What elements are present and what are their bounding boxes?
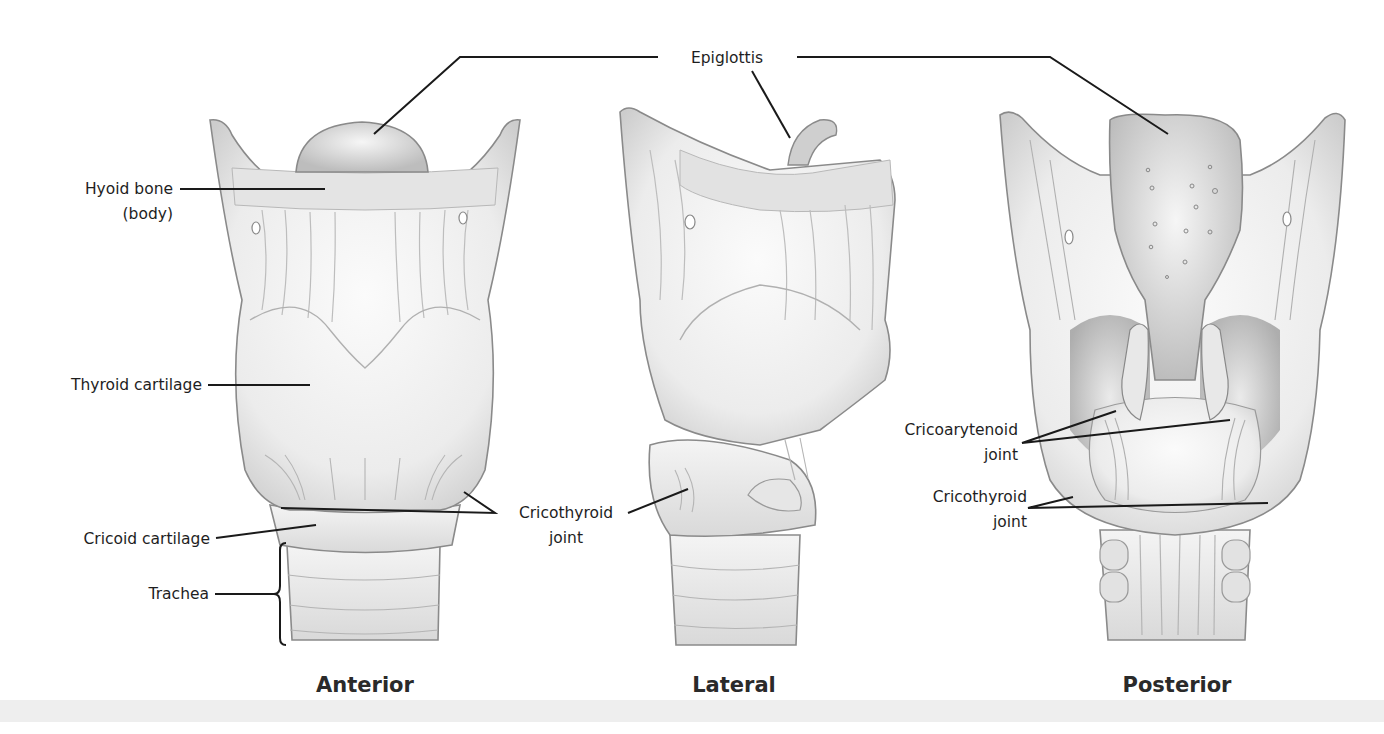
caption-posterior: Posterior — [1123, 673, 1233, 697]
bottom-band — [0, 700, 1384, 722]
anterior-epiglottis — [296, 122, 428, 172]
posterior-view — [1000, 112, 1345, 640]
label-cricothyroid-joint-posterior: Cricothyroid — [933, 488, 1027, 506]
label-cricothyroid-joint-anterior: Cricothyroid — [519, 504, 613, 522]
label-hyoid-bone: Hyoid bone — [85, 180, 173, 198]
label-cricoid-cartilage: Cricoid cartilage — [83, 530, 210, 548]
anterior-view — [210, 120, 520, 640]
label-hyoid-body: (body) — [123, 205, 173, 223]
anterior-trachea — [287, 545, 440, 640]
label-cricothyroid-joint-anterior-2: joint — [548, 529, 583, 547]
lateral-trachea — [670, 535, 800, 645]
lateral-view — [620, 108, 895, 645]
label-trachea: Trachea — [148, 585, 209, 603]
label-epiglottis: Epiglottis — [691, 49, 763, 67]
view-captions: Anterior Lateral Posterior — [316, 673, 1232, 697]
caption-lateral: Lateral — [692, 673, 776, 697]
posterior-trachea — [1100, 530, 1250, 640]
caption-anterior: Anterior — [316, 673, 414, 697]
lateral-epiglottis — [788, 120, 837, 165]
larynx-diagram: Epiglottis Hyoid bone (body) Thyroid car… — [0, 0, 1384, 734]
label-cricoarytenoid-joint: Cricoarytenoid — [904, 421, 1018, 439]
trachea-bracket — [274, 543, 286, 645]
label-thyroid-cartilage: Thyroid cartilage — [70, 376, 202, 394]
label-cricothyroid-joint-posterior-2: joint — [992, 513, 1027, 531]
label-cricoarytenoid-joint-2: joint — [983, 446, 1018, 464]
